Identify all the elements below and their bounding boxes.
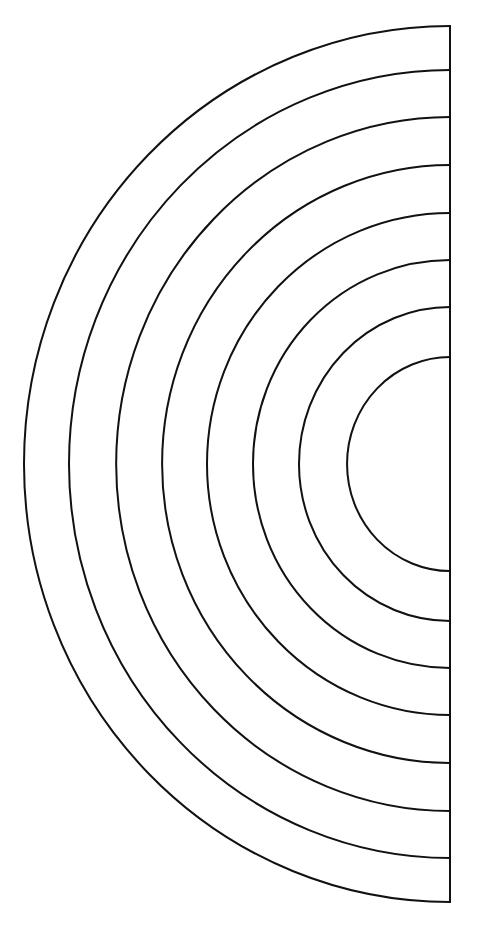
arc-5[interactable] (207, 213, 450, 715)
arc-6[interactable] (253, 260, 450, 668)
arc-innermost[interactable] (347, 357, 450, 571)
concentric-arc-figure (0, 0, 479, 941)
arc-outermost[interactable] (24, 26, 450, 902)
figure-canvas (0, 0, 479, 941)
arc-7[interactable] (299, 307, 450, 621)
arc-2[interactable] (69, 70, 450, 858)
arc-4[interactable] (162, 165, 450, 763)
